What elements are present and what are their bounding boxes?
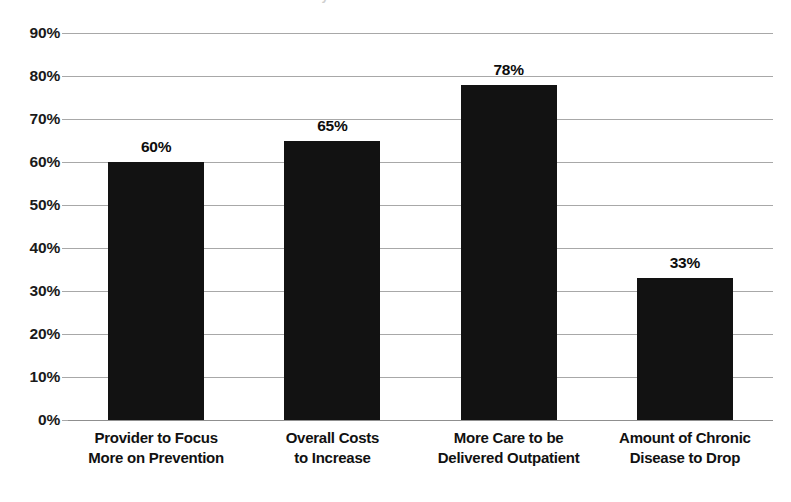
bar-value-label: 60% [96, 138, 216, 156]
y-axis-tick-label: 70% [2, 110, 60, 128]
bar [284, 141, 380, 421]
y-axis-tick-label: 30% [2, 282, 60, 300]
bar-value-label: 65% [272, 117, 392, 135]
x-axis-category-label-line: More Care to be [421, 428, 597, 448]
bar [108, 162, 204, 420]
y-axis-tick-label: 80% [2, 67, 60, 85]
bar [461, 85, 557, 420]
y-axis: 90%80%70%60%50%40%30%20%10%0% [0, 33, 60, 420]
gridline [68, 76, 773, 77]
y-axis-tick-label: 60% [2, 153, 60, 171]
x-axis-category-label-line: Amount of Chronic [597, 428, 773, 448]
y-axis-tick-label: 90% [2, 24, 60, 42]
x-axis-category-label: More Care to beDelivered Outpatient [421, 428, 597, 468]
gridline [68, 119, 773, 120]
bar-chart-figure: Predictions for the Future of Healthcare… [0, 0, 791, 502]
x-axis-category-label: Overall Coststo Increase [244, 428, 420, 468]
x-axis: Provider to FocusMore on PreventionOvera… [68, 428, 773, 488]
x-axis-category-label-line: to Increase [244, 448, 420, 468]
x-axis-category-label-line: Provider to Focus [68, 428, 244, 448]
plot-area: 60%65%78%33% [68, 33, 773, 420]
bar-value-label: 33% [625, 254, 745, 272]
x-axis-category-label-line: Overall Costs [244, 428, 420, 448]
bar [637, 278, 733, 420]
y-axis-tick-label: 0% [2, 411, 60, 429]
y-axis-tick-label: 10% [2, 368, 60, 386]
y-axis-tick-label: 50% [2, 196, 60, 214]
x-axis-category-label-line: Delivered Outpatient [421, 448, 597, 468]
axis-baseline [68, 420, 773, 421]
bar-value-label: 78% [449, 61, 569, 79]
x-axis-category-label-line: More on Prevention [68, 448, 244, 468]
x-axis-category-label: Provider to FocusMore on Prevention [68, 428, 244, 468]
x-axis-category-label: Amount of ChronicDisease to Drop [597, 428, 773, 468]
chart-title-cutoff: Predictions for the Future of Healthcare… [36, 0, 636, 3]
y-axis-tick-label: 20% [2, 325, 60, 343]
y-axis-tick-label: 40% [2, 239, 60, 257]
gridline [68, 33, 773, 34]
x-axis-category-label-line: Disease to Drop [597, 448, 773, 468]
